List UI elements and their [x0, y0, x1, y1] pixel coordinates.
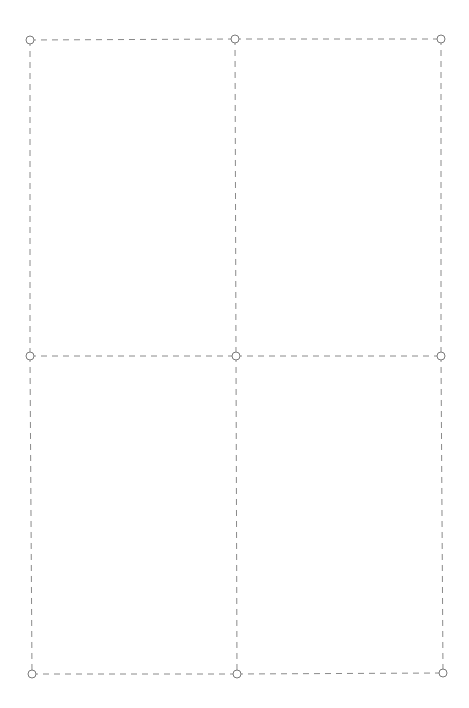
- grid-handle-circle-icon[interactable]: [437, 35, 445, 43]
- grid-handle-circle-icon[interactable]: [439, 669, 447, 677]
- grid-handle-circle-icon[interactable]: [231, 35, 239, 43]
- grid-handle-circle-icon[interactable]: [232, 352, 240, 360]
- grid-handle-circle-icon[interactable]: [233, 670, 241, 678]
- grid-handle-circle-icon[interactable]: [437, 352, 445, 360]
- horizontal-dashed-line: [30, 39, 235, 40]
- grid-handle-circle-icon[interactable]: [26, 352, 34, 360]
- vertical-dashed-line: [235, 39, 236, 356]
- vertical-dashed-line: [441, 356, 443, 673]
- vertical-dashed-line: [236, 356, 237, 674]
- horizontal-dashed-line: [237, 673, 443, 674]
- grid-handle-circle-icon[interactable]: [28, 670, 36, 678]
- vertical-dashed-line: [30, 356, 32, 674]
- dashed-grid-canvas: [0, 0, 469, 708]
- grid-handle-circle-icon[interactable]: [26, 36, 34, 44]
